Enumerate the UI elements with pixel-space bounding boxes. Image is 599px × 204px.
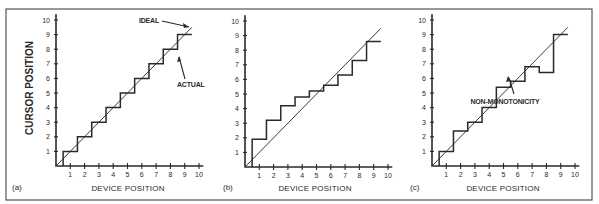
panel-b: 1234567891012345678910 (b) DEVICE POSITI…	[223, 15, 392, 193]
y-tick-label: 6	[235, 76, 239, 83]
y-tick-label: 7	[235, 61, 239, 68]
panel-b-ideal-line	[245, 28, 381, 167]
y-axis-label: CURSOR POSITION	[24, 41, 35, 135]
x-tick-label: 9	[372, 172, 376, 179]
panel-a-x-axis-label: DEVICE POSITION	[91, 184, 164, 193]
panel-a-actual-staircase	[63, 35, 192, 166]
y-tick-label: 1	[235, 149, 239, 156]
y-tick-label: 5	[235, 91, 239, 98]
panel-b-x-axis-label: DEVICE POSITION	[278, 184, 351, 193]
panel-c-label: (c)	[410, 183, 420, 192]
x-tick-label: 8	[544, 171, 548, 178]
x-tick-label: 8	[357, 172, 361, 179]
panel-c-axes: 1234567891012345678910	[418, 14, 579, 178]
y-tick-label: 2	[422, 133, 426, 140]
x-tick-label: 1	[257, 172, 261, 179]
panel-c-ideal-line	[432, 27, 568, 166]
x-tick-label: 8	[168, 171, 172, 178]
panel-a-ideal-line	[56, 27, 192, 166]
y-tick-label: 3	[235, 120, 239, 127]
y-tick-label: 6	[422, 75, 426, 82]
panel-c-x-axis-label: DEVICE POSITION	[466, 184, 539, 193]
panel-a-label: (a)	[12, 183, 22, 192]
x-tick-label: 4	[111, 171, 115, 178]
x-tick-label: 5	[502, 171, 506, 178]
panel-b-actual-staircase	[252, 41, 381, 167]
x-tick-label: 10	[384, 172, 392, 179]
y-tick-label: 8	[46, 46, 50, 53]
y-tick-label: 8	[422, 46, 426, 53]
y-tick-label: 9	[46, 31, 50, 38]
x-tick-label: 10	[571, 171, 579, 178]
x-tick-label: 1	[68, 171, 72, 178]
y-tick-label: 8	[235, 47, 239, 54]
y-tick-label: 2	[46, 133, 50, 140]
figure: CURSOR POSITION 1234567891012345678910 (…	[0, 0, 599, 204]
y-tick-label: 5	[422, 90, 426, 97]
x-tick-label: 5	[315, 172, 319, 179]
panel-c: 1234567891012345678910 (c) DEVICE POSITI…	[410, 14, 579, 193]
x-tick-label: 3	[97, 171, 101, 178]
x-tick-label: 7	[154, 171, 158, 178]
y-tick-label: 4	[422, 104, 426, 111]
x-tick-label: 3	[286, 172, 290, 179]
y-tick-label: 5	[46, 90, 50, 97]
x-tick-label: 6	[140, 171, 144, 178]
x-tick-label: 4	[487, 171, 491, 178]
x-tick-label: 5	[126, 171, 130, 178]
y-tick-label: 2	[235, 134, 239, 141]
x-tick-label: 4	[300, 172, 304, 179]
actual-annotation: ACTUAL	[177, 81, 205, 88]
non-monotonicity-arrowhead-icon	[506, 76, 511, 82]
x-tick-label: 3	[473, 171, 477, 178]
chart-canvas: CURSOR POSITION 1234567891012345678910 (…	[0, 0, 599, 204]
x-tick-label: 9	[183, 171, 187, 178]
y-tick-label: 6	[46, 75, 50, 82]
y-tick-label: 9	[422, 31, 426, 38]
x-tick-label: 7	[343, 172, 347, 179]
panel-b-label: (b)	[223, 183, 233, 192]
x-tick-label: 6	[329, 172, 333, 179]
y-tick-label: 9	[235, 32, 239, 39]
ideal-annotation: IDEAL	[139, 17, 160, 24]
y-tick-label: 10	[231, 18, 239, 25]
y-tick-label: 3	[422, 119, 426, 126]
y-tick-label: 7	[422, 60, 426, 67]
x-tick-label: 6	[516, 171, 520, 178]
y-tick-label: 1	[422, 148, 426, 155]
panel-b-axes: 1234567891012345678910	[231, 15, 392, 179]
x-tick-label: 2	[272, 172, 276, 179]
x-tick-label: 1	[444, 171, 448, 178]
y-tick-label: 4	[235, 105, 239, 112]
x-tick-label: 9	[559, 171, 563, 178]
y-tick-label: 1	[46, 148, 50, 155]
non-monotonicity-annotation: NON-MONOTONICITY	[470, 98, 540, 105]
y-tick-label: 3	[46, 119, 50, 126]
x-tick-label: 7	[530, 171, 534, 178]
panel-a-axes: 1234567891012345678910	[42, 14, 203, 178]
y-tick-label: 4	[46, 104, 50, 111]
x-tick-label: 10	[195, 171, 203, 178]
y-tick-label: 10	[42, 17, 50, 24]
y-tick-label: 7	[46, 60, 50, 67]
x-tick-label: 2	[83, 171, 87, 178]
actual-arrowhead-icon	[177, 56, 181, 62]
y-tick-label: 10	[418, 17, 426, 24]
panel-a: 1234567891012345678910 (a) DEVICE POSITI…	[12, 14, 205, 193]
x-tick-label: 2	[459, 171, 463, 178]
